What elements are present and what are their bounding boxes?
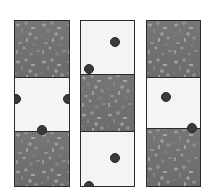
column-3 [146, 20, 201, 187]
c3-band-top [147, 21, 200, 77]
column-2 [80, 20, 135, 187]
c3-band-middle [147, 77, 200, 128]
c3-band-middle-divider [147, 77, 200, 78]
c3-dot-lower-right [187, 123, 197, 133]
c2-dot-mid-left [84, 64, 94, 74]
c2-dot-lower-center [110, 153, 120, 163]
c2-band-middle-divider [81, 74, 134, 75]
c1-dot-bottom [37, 125, 47, 135]
c1-band-bottom [15, 131, 69, 187]
c1-band-middle-divider [15, 77, 69, 78]
column-1 [14, 20, 70, 187]
c2-dot-bottom-left [84, 181, 94, 187]
c1-dot-right [63, 94, 70, 104]
c2-dot-upper-right [110, 37, 120, 47]
c1-band-middle [15, 77, 69, 131]
c1-band-top [15, 21, 69, 77]
c3-dot-upper-left [161, 92, 171, 102]
c2-band-middle [81, 74, 134, 131]
c3-band-bottom [147, 128, 200, 187]
diagram-canvas [0, 0, 214, 194]
c2-band-bottom [81, 131, 134, 187]
c2-band-bottom-divider [81, 131, 134, 132]
